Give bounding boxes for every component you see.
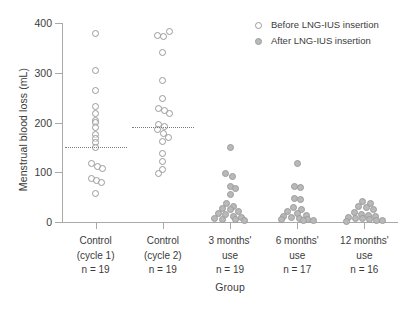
data-point	[288, 214, 295, 221]
data-point	[379, 217, 386, 224]
data-point	[92, 67, 99, 74]
y-tick-label-wrap: 100	[8, 167, 52, 178]
x-tick-mark	[163, 223, 164, 229]
data-point	[222, 170, 229, 177]
legend-item-before: Before LNG-IUS insertion	[255, 18, 405, 32]
legend-item-label: After LNG-IUS insertion	[271, 34, 371, 48]
data-point	[229, 173, 236, 180]
data-point	[92, 30, 99, 37]
data-point	[166, 28, 173, 35]
data-point	[241, 217, 248, 224]
y-tick-label: 400	[12, 18, 52, 29]
y-tick-label-wrap: 0	[8, 217, 52, 228]
data-point	[232, 185, 239, 192]
data-point	[294, 160, 301, 167]
y-tick-mark	[55, 222, 63, 223]
data-point	[165, 134, 172, 141]
data-point	[211, 215, 218, 222]
data-point	[159, 95, 166, 102]
data-point	[359, 215, 366, 222]
y-tick-label-wrap: 300	[8, 68, 52, 79]
data-point	[92, 103, 99, 110]
data-point	[366, 216, 373, 223]
x-axis-category-label: 12 months'usen = 16	[322, 234, 406, 278]
y-tick-mark	[55, 23, 63, 24]
data-point	[159, 77, 166, 84]
chart-legend: Before LNG-IUS insertionAfter LNG-IUS in…	[255, 18, 405, 50]
data-point	[278, 216, 285, 223]
x-tick-mark	[96, 223, 97, 229]
x-axis-category-label-line: 12 months'	[322, 234, 406, 249]
chart-figure: Menstrual blood loss (mL) Group 01002003…	[0, 0, 406, 311]
data-point	[92, 190, 99, 197]
x-axis-title: Group	[60, 281, 400, 293]
median-line	[65, 147, 127, 148]
data-point	[92, 124, 99, 131]
legend-item-after: After LNG-IUS insertion	[255, 34, 405, 48]
data-point	[92, 87, 99, 94]
y-tick-mark	[55, 123, 63, 124]
data-point	[227, 191, 234, 198]
data-point	[352, 215, 359, 222]
x-axis-category-label-line: n = 16	[322, 263, 406, 278]
x-axis-category-label-line: use	[322, 249, 406, 264]
median-line	[132, 127, 194, 128]
data-point	[159, 138, 166, 145]
data-point	[92, 110, 99, 117]
y-tick-label: 300	[12, 68, 52, 79]
y-axis-title: Menstrual blood loss (mL)	[14, 19, 32, 240]
data-point	[343, 218, 350, 225]
x-tick-mark	[364, 223, 365, 229]
data-point	[159, 150, 166, 157]
data-point	[160, 33, 167, 40]
y-tick-mark	[55, 73, 63, 74]
data-point	[155, 170, 162, 177]
legend-marker-icon	[255, 22, 262, 29]
data-point	[310, 217, 317, 224]
y-tick-label: 100	[12, 167, 52, 178]
data-point	[166, 110, 173, 117]
data-point	[159, 158, 166, 165]
x-tick-mark	[230, 223, 231, 229]
data-point	[161, 123, 168, 130]
data-point	[159, 49, 166, 56]
y-tick-label-wrap: 400	[8, 18, 52, 29]
legend-marker-icon	[255, 38, 262, 45]
y-tick-mark	[55, 172, 63, 173]
x-tick-mark	[297, 223, 298, 229]
y-tick-label: 0	[12, 217, 52, 228]
data-point	[219, 216, 226, 223]
data-point	[297, 196, 304, 203]
data-point	[363, 204, 370, 211]
data-point	[98, 179, 105, 186]
y-tick-label-wrap: 200	[8, 118, 52, 129]
data-point	[232, 216, 239, 223]
data-point	[300, 217, 307, 224]
data-point	[99, 165, 106, 172]
y-tick-label: 200	[12, 118, 52, 129]
data-point	[227, 144, 234, 151]
data-point	[297, 184, 304, 191]
legend-item-label: Before LNG-IUS insertion	[271, 18, 379, 32]
